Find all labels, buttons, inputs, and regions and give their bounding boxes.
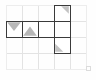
cell-row2-col4-fill	[55, 22, 71, 38]
figure-canvas	[0, 0, 96, 80]
corner-mark	[87, 67, 91, 71]
grid-figure	[0, 0, 96, 80]
corner-mark-box	[87, 67, 91, 71]
cell-row2-col3-fill	[39, 22, 55, 38]
